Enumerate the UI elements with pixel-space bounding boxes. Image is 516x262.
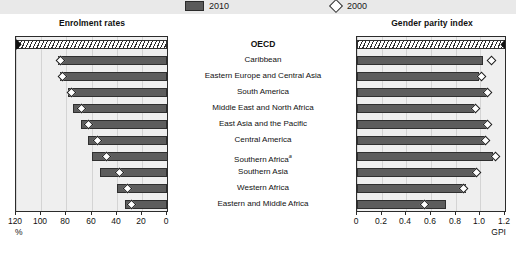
x-axis-unit-gpi: GPI	[491, 227, 506, 237]
chart-row	[16, 37, 167, 53]
category-label-southern-asia: Southern Asia	[170, 164, 356, 180]
bar-2010-southern-africa	[357, 152, 493, 161]
category-label-southern-africa: Southern Africaa	[170, 148, 356, 164]
axis-tick-label-0.8: 0.8	[449, 216, 461, 226]
chart-row	[357, 165, 505, 181]
chart-row	[357, 117, 505, 133]
x-axis-enrolment-rates: % 120100806040200	[15, 212, 168, 246]
bar-2010-east-asia-and-the-pacific	[81, 120, 167, 129]
chart-row	[16, 133, 167, 149]
axis-tick	[91, 212, 92, 215]
category-label-eastern-europe-and-central-asia: Eastern Europe and Central Asia	[170, 68, 356, 84]
axis-tick-label-20: 20	[136, 216, 145, 226]
axis-tick	[455, 212, 456, 215]
chart-row	[16, 85, 167, 101]
axis-tick	[430, 212, 431, 215]
bar-2010-oecd	[16, 40, 167, 49]
axis-tick-label-40: 40	[111, 216, 120, 226]
chart-row	[16, 165, 167, 181]
category-label-western-africa: Western Africa	[170, 180, 356, 196]
axis-tick	[40, 212, 41, 215]
chart-row	[357, 101, 505, 117]
bar-2010-eastern-europe-and-central-asia	[357, 72, 479, 81]
bar-2010-eastern-and-middle-africa	[357, 200, 446, 209]
x-axis-unit-percent: %	[15, 227, 23, 237]
axis-tick	[166, 212, 167, 215]
chart-row	[16, 101, 167, 117]
bar-2010-southern-asia	[100, 168, 167, 177]
chart-row	[357, 133, 505, 149]
axis-tick	[65, 212, 66, 215]
bar-2010-middle-east-and-north-africa	[357, 104, 474, 113]
category-label-central-america: Central America	[170, 132, 356, 148]
chart-row	[16, 197, 167, 212]
legend-label-2000: 2000	[347, 2, 367, 11]
legend-item-2010: 2010	[185, 1, 229, 11]
axis-tick	[381, 212, 382, 215]
bar-2010-oecd	[357, 40, 505, 49]
chart-row	[357, 181, 505, 197]
footnote-marker: a	[289, 153, 292, 159]
chart-row	[16, 149, 167, 165]
axis-tick	[141, 212, 142, 215]
plot-area-gender-parity-index	[356, 36, 506, 212]
axis-tick-label-0.2: 0.2	[375, 216, 387, 226]
chart-row	[357, 197, 505, 212]
legend-item-2000: 2000	[330, 1, 367, 11]
axis-tick	[405, 212, 406, 215]
axis-tick	[479, 212, 480, 215]
axis-tick	[356, 212, 357, 215]
chart-row	[16, 181, 167, 197]
axis-tick	[116, 212, 117, 215]
bar-2010-south-america	[357, 88, 487, 97]
category-label-south-america: South America	[170, 84, 356, 100]
chart-row	[16, 53, 167, 69]
chart-row	[357, 149, 505, 165]
chart-row	[357, 37, 505, 53]
legend-label-2010: 2010	[209, 2, 229, 11]
axis-tick-label-0: 0	[164, 216, 169, 226]
chart-root: 2010 2000 Enrolment rates Gender parity …	[0, 0, 516, 262]
bar-2010-east-asia-and-the-pacific	[357, 120, 488, 129]
plot-area-enrolment-rates	[15, 36, 168, 212]
axis-tick	[504, 212, 505, 215]
axis-tick-label-120: 120	[8, 216, 22, 226]
chart-row	[357, 85, 505, 101]
category-label-caribbean: Caribbean	[170, 52, 356, 68]
x-axis-gender-parity-index: GPI 00.20.40.60.81.01.2	[356, 212, 506, 246]
axis-tick-label-1.0: 1.0	[473, 216, 485, 226]
chart-row	[357, 53, 505, 69]
chart-legend: 2010 2000	[0, 0, 516, 14]
category-label-east-asia-and-the-pacific: East Asia and the Pacific	[170, 116, 356, 132]
axis-tick-label-1.2: 1.2	[498, 216, 510, 226]
axis-tick-label-0.6: 0.6	[424, 216, 436, 226]
axis-tick-label-80: 80	[60, 216, 69, 226]
category-label-oecd: OECD	[170, 36, 356, 52]
bar-2010-caribbean	[357, 56, 483, 65]
panel-title-gender-parity-index: Gender parity index	[357, 18, 507, 28]
category-label-middle-east-and-north-africa: Middle East and North Africa	[170, 100, 356, 116]
axis-tick-label-100: 100	[33, 216, 47, 226]
category-label-eastern-and-middle-africa: Eastern and Middle Africa	[170, 196, 356, 212]
axis-tick-label-60: 60	[86, 216, 95, 226]
axis-tick-label-0.4: 0.4	[399, 216, 411, 226]
marker-2000-caribbean	[487, 56, 497, 66]
bar-2010-western-africa	[357, 184, 466, 193]
legend-bar-swatch-icon	[185, 1, 204, 11]
bar-2010-south-america	[68, 88, 167, 97]
bar-2010-central-america	[357, 136, 485, 145]
gridline	[505, 37, 506, 211]
chart-row	[16, 69, 167, 85]
gridline	[167, 37, 168, 211]
chart-row	[357, 69, 505, 85]
chart-row	[16, 117, 167, 133]
axis-tick	[15, 212, 16, 215]
category-label-column: OECDCaribbeanEastern Europe and Central …	[170, 36, 356, 212]
legend-diamond-icon	[329, 0, 343, 13]
axis-tick-label-0: 0	[354, 216, 359, 226]
bar-2010-caribbean	[58, 56, 167, 65]
bar-2010-eastern-europe-and-central-asia	[60, 72, 167, 81]
panel-title-enrolment-rates: Enrolment rates	[16, 18, 168, 28]
bar-2010-middle-east-and-north-africa	[73, 104, 167, 113]
bar-2010-southern-asia	[357, 168, 477, 177]
